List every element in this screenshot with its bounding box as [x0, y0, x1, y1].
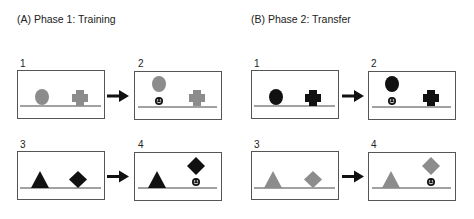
gray-cross-icon [72, 90, 88, 106]
gray-circle-icon [35, 89, 49, 105]
gray-triangle-icon [264, 171, 282, 188]
shapes-layer [0, 0, 474, 219]
smiley-icon [388, 97, 396, 105]
black-cross-icon [305, 90, 321, 106]
arrow-icon [107, 90, 129, 102]
arrow-icon [342, 171, 364, 183]
black-circle-icon [269, 89, 283, 105]
gray-diamond-icon [304, 171, 322, 188]
smiley-icon [192, 178, 200, 186]
gray-triangle-icon [382, 171, 400, 188]
panel-a2-content [138, 76, 217, 107]
black-diamond-icon [69, 171, 87, 188]
panel-b4-content [372, 157, 451, 188]
black-triangle-icon [31, 171, 49, 188]
gray-diamond-icon [422, 157, 440, 175]
arrow-icon [342, 90, 364, 102]
black-circle-icon [385, 76, 399, 92]
figure: (A) Phase 1: Training (B) Phase 2: Trans… [0, 0, 474, 219]
smiley-icon [155, 97, 163, 105]
arrow-icon [107, 171, 129, 183]
panel-a4-content [138, 157, 217, 188]
gray-circle-icon [152, 76, 166, 92]
black-diamond-icon [187, 157, 205, 175]
black-cross-icon [423, 90, 439, 106]
panel-b1-content [254, 89, 335, 106]
gray-cross-icon [189, 90, 205, 106]
panel-a3-content [20, 171, 101, 188]
panel-a1-content [20, 89, 101, 106]
panel-b2-content [372, 76, 451, 107]
panel-b3-content [254, 171, 335, 188]
smiley-icon [427, 178, 435, 186]
black-triangle-icon [148, 171, 166, 188]
